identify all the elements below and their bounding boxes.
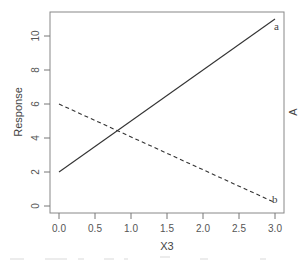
y-tick-label: 2 bbox=[30, 169, 41, 175]
y-tick-label: 4 bbox=[30, 135, 41, 141]
x-tick-label: 0.0 bbox=[52, 223, 66, 234]
x-tick-label: 2.5 bbox=[232, 223, 246, 234]
y-tick-label: 0 bbox=[30, 203, 41, 209]
plot-frame bbox=[50, 12, 284, 213]
x-tick-label: 1.0 bbox=[124, 223, 138, 234]
x-axis-title: X3 bbox=[160, 240, 173, 252]
x-tick-label: 1.5 bbox=[160, 223, 174, 234]
y-axis-title: Response bbox=[12, 87, 24, 137]
x-tick-label: 0.5 bbox=[88, 223, 102, 234]
series-line-a bbox=[59, 19, 275, 172]
y-tick-label: 8 bbox=[30, 67, 41, 73]
y-tick-label: 6 bbox=[30, 101, 41, 107]
series-layer bbox=[59, 19, 275, 203]
series-a-label: a bbox=[274, 20, 279, 32]
series-line-b bbox=[59, 104, 275, 203]
interaction-plot: 0 2 4 6 8 10 0.0 0.5 1.0 1.5 2.0 2.5 3.0… bbox=[0, 0, 308, 263]
x-axis: 0.0 0.5 1.0 1.5 2.0 2.5 3.0 bbox=[52, 213, 282, 234]
x-tick-label: 3.0 bbox=[268, 223, 282, 234]
y-tick-label: 10 bbox=[30, 30, 41, 42]
y-axis: 0 2 4 6 8 10 bbox=[30, 30, 50, 209]
series-b-label: b bbox=[272, 193, 278, 205]
right-axis-title: A bbox=[287, 108, 299, 116]
x-tick-label: 2.0 bbox=[196, 223, 210, 234]
cropped-caption bbox=[10, 256, 266, 260]
